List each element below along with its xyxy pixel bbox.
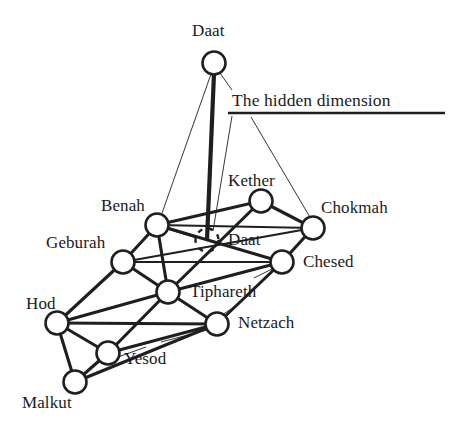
pillar-layer: [207, 74, 214, 241]
edge-benah-chesed: [157, 225, 282, 262]
node-label-yesod: Yesod: [124, 350, 166, 367]
node-kether[interactable]: [250, 190, 273, 213]
tree-of-life-diagram: DaatKetherChokmahBenahDaatGeburahChesedT…: [0, 0, 451, 441]
node-tiphareth[interactable]: [157, 281, 180, 304]
node-label-benah: Benah: [101, 197, 145, 214]
node-label-chesed: Chesed: [303, 253, 354, 270]
pillar-hidden-dimension: [207, 74, 214, 241]
edge-benah-chokmah: [157, 225, 313, 228]
node-benah[interactable]: [146, 214, 169, 237]
node-label-tiphareth: Tiphareth: [190, 283, 256, 300]
leader-daat-hidden-to-benah: [167, 229, 196, 238]
node-geburah[interactable]: [112, 251, 135, 274]
node-label-netzach: Netzach: [238, 314, 294, 331]
node-label-daat_hidden: Daat: [228, 231, 261, 248]
node-chesed[interactable]: [271, 251, 294, 274]
node-chokmah[interactable]: [302, 217, 325, 240]
node-malkut[interactable]: [64, 371, 87, 394]
leader-daat-top-to-benah: [161, 74, 211, 216]
node-label-daat_top: Daat: [192, 22, 225, 39]
tree-of-life-canvas: [0, 0, 451, 441]
edge-hod-netzach: [57, 323, 217, 324]
node-daat_top[interactable]: [203, 52, 226, 75]
node-label-chokmah: Chokmah: [321, 199, 388, 216]
node-hod[interactable]: [46, 312, 69, 335]
leader-chesed-tick-upper: [232, 265, 272, 276]
node-label-hod: Hod: [26, 295, 56, 312]
node-netzach[interactable]: [206, 313, 229, 336]
node-label-malkut: Malkut: [22, 394, 72, 411]
leader-daat-top-to-caption: [220, 73, 232, 90]
node-yesod[interactable]: [97, 342, 120, 365]
node-label-kether: Kether: [228, 172, 275, 189]
node-label-geburah: Geburah: [46, 234, 105, 251]
hidden-dimension-caption: The hidden dimension: [232, 92, 391, 110]
